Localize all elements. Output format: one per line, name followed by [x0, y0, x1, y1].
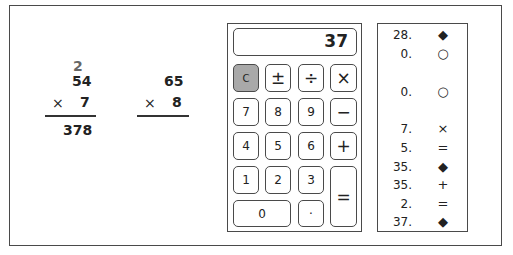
- plus-icon: +: [435, 179, 451, 191]
- tape-value: 0.: [378, 86, 412, 98]
- key-2[interactable]: 2: [265, 166, 291, 194]
- tape-value: 5.: [378, 142, 412, 154]
- answer-line: [45, 115, 96, 117]
- clear-button[interactable]: C: [233, 64, 259, 92]
- multiply-sign: ×: [144, 96, 156, 110]
- key-3[interactable]: 3: [298, 166, 324, 194]
- key-5[interactable]: 5: [265, 132, 291, 160]
- total-diamond-icon: ◆: [435, 216, 451, 228]
- key-4[interactable]: 4: [233, 132, 259, 160]
- equals-icon: =: [435, 198, 451, 210]
- tape-value: 35.: [378, 161, 412, 173]
- multiplier: 7: [80, 95, 90, 109]
- multiply-icon: ×: [435, 123, 451, 135]
- key-0[interactable]: 0: [233, 200, 291, 227]
- multiplicand: 54: [72, 74, 91, 88]
- multiplicand: 65: [164, 74, 183, 88]
- carry-digit: 2: [73, 59, 83, 73]
- key-6[interactable]: 6: [298, 132, 324, 160]
- answer-line: [137, 115, 189, 117]
- minus-button[interactable]: −: [330, 98, 357, 126]
- total-diamond-icon: ◆: [435, 161, 451, 173]
- key-1[interactable]: 1: [233, 166, 259, 194]
- clear-circle-icon: ○: [435, 86, 451, 98]
- key-8[interactable]: 8: [265, 98, 291, 126]
- product: 378: [63, 123, 92, 137]
- clear-circle-icon: ○: [435, 48, 451, 60]
- equals-button[interactable]: =: [330, 166, 357, 227]
- tape-value: 37.: [378, 216, 412, 228]
- total-diamond-icon: ◆: [435, 29, 451, 41]
- calculator-display: 37: [233, 28, 357, 56]
- multiply-sign: ×: [52, 96, 64, 110]
- multiplier: 8: [172, 95, 182, 109]
- tape-value: 2.: [378, 198, 412, 210]
- tape-value: 7.: [378, 123, 412, 135]
- tape-value: 0.: [378, 48, 412, 60]
- plus-button[interactable]: +: [330, 132, 357, 160]
- key-9[interactable]: 9: [298, 98, 324, 126]
- decimal-button[interactable]: ·: [298, 200, 324, 227]
- divide-button[interactable]: ÷: [298, 64, 324, 92]
- tape-value: 28.: [378, 29, 412, 41]
- multiply-button[interactable]: ×: [330, 64, 357, 92]
- tape-value: 35.: [378, 179, 412, 191]
- key-7[interactable]: 7: [233, 98, 259, 126]
- plus-minus-button[interactable]: ±: [265, 64, 291, 92]
- equals-icon: =: [435, 142, 451, 154]
